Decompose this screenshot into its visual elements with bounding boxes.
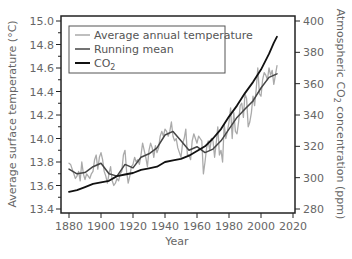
x-tick-label: 1980: [215, 220, 243, 233]
left-tick-label: 15.0: [30, 15, 55, 28]
right-tick-label: 400: [303, 15, 324, 28]
right-tick-label: 360: [303, 78, 324, 91]
left-tick-label: 14.8: [30, 39, 55, 52]
left-tick-label: 14.2: [30, 109, 55, 122]
x-tick-label: 1920: [119, 220, 147, 233]
series-average-annual-temperature: [69, 66, 277, 186]
x-tick-label: 1940: [151, 220, 179, 233]
right-axis-title-pre: Atmospheric CO: [334, 9, 347, 98]
x-tick-label: 1880: [55, 220, 83, 233]
left-tick-label: 14.6: [30, 62, 55, 75]
left-tick-label: 14.0: [30, 133, 55, 146]
legend-label-co2-main: CO: [94, 57, 111, 70]
legend-label-running-mean: Running mean: [94, 43, 174, 56]
right-axis: 280300320340360380400: [295, 15, 324, 216]
chart: 13.413.613.814.014.214.414.614.815.0 280…: [0, 0, 352, 259]
left-tick-label: 14.4: [30, 86, 55, 99]
left-tick-label: 13.8: [30, 156, 55, 169]
left-axis: 13.413.613.814.014.214.414.614.815.0: [30, 15, 62, 216]
legend-label-co2-sub: 2: [110, 63, 115, 72]
x-axis-title: Year: [164, 235, 189, 248]
right-axis-title-post: concentration (ppm): [334, 103, 347, 219]
legend-label-temperature: Average annual temperature: [94, 29, 253, 42]
right-tick-label: 340: [303, 109, 324, 122]
left-axis-title: Average surface temperature (°C): [6, 20, 19, 207]
right-tick-label: 380: [303, 46, 324, 59]
legend: Average annual temperature Running mean …: [69, 26, 253, 73]
x-tick-label: 1900: [87, 220, 115, 233]
left-tick-label: 13.4: [30, 203, 55, 216]
right-tick-label: 280: [303, 203, 324, 216]
right-tick-label: 320: [303, 140, 324, 153]
left-tick-label: 13.6: [30, 180, 55, 193]
right-tick-label: 300: [303, 172, 324, 185]
x-axis: 18801900192019401960198020002020: [55, 213, 307, 233]
x-tick-label: 1960: [183, 220, 211, 233]
x-tick-label: 2000: [247, 220, 275, 233]
x-tick-label: 2020: [279, 220, 307, 233]
right-axis-title: Atmospheric CO2 concentration (ppm): [332, 9, 347, 220]
